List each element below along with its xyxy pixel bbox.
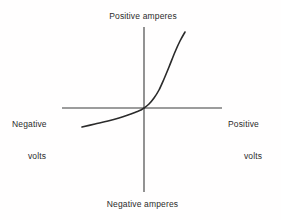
- axis-label-positive-amperes: Positive amperes: [96, 11, 190, 22]
- axis-label-positive-volts: Positive volts: [228, 98, 278, 182]
- axis-label-positive-volts-line2: volts: [228, 151, 278, 162]
- diode-iv-curve-path: [82, 32, 185, 127]
- axis-label-negative-volts: Negative volts: [12, 98, 62, 182]
- diode-iv-characteristic-figure: Positive amperes Negative amperes Negati…: [0, 0, 281, 220]
- axis-label-negative-volts-line1: Negative: [12, 119, 62, 130]
- axis-label-negative-amperes: Negative amperes: [93, 199, 192, 210]
- data-series-group: [82, 32, 185, 127]
- axis-label-negative-volts-line2: volts: [12, 151, 62, 162]
- axis-label-positive-volts-line1: Positive: [228, 119, 278, 130]
